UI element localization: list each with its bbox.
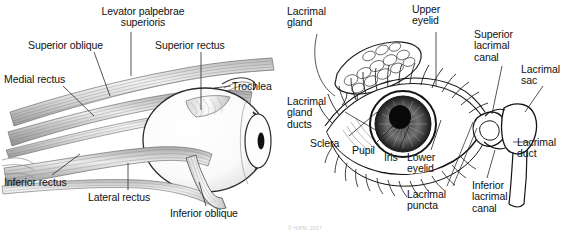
label-inferior_lacrimal: Inferior lacrimal canal (472, 180, 528, 214)
copyright-text: © HIPM, 2017 (288, 225, 322, 231)
label-superior_lacrimal: Superior lacrimal canal (474, 29, 532, 63)
label-sclera: Sclera (310, 138, 354, 149)
label-levator: Levator palpebrae superioris (88, 6, 198, 29)
label-lacrimal_gland_ducts: Lacrimal gland ducts (287, 96, 345, 130)
label-lacrimal_duct: Lacrimal duct (517, 137, 562, 160)
label-lacrimal_gland_top: Lacrimal gland (287, 6, 345, 29)
pupil (389, 105, 411, 129)
label-inferior_oblique: Inferior oblique (170, 208, 260, 219)
label-lateral_rectus: Lateral rectus (88, 192, 174, 203)
label-superior_oblique: Superior oblique (28, 40, 132, 51)
label-trochlea: Trochlea (232, 81, 284, 92)
label-pupil: Pupil (352, 145, 388, 156)
label-upper_eyelid: Upper eyelid (412, 4, 460, 27)
label-lacrimal_sac: Lacrimal sac (521, 64, 562, 87)
label-superior_rectus: Superior rectus (155, 40, 253, 51)
label-lacrimal_puncta: Lacrimal puncta (407, 189, 465, 212)
lacrimal-apparatus-panel: Lacrimal glandUpper eyelidSuperior lacri… (281, 0, 562, 237)
extraocular-muscles-panel: Levator palpebrae superiorisSuperior obl… (0, 0, 281, 237)
label-lower_eyelid: Lower eyelid (407, 152, 455, 175)
anatomy-figure: Levator palpebrae superiorisSuperior obl… (0, 0, 562, 237)
label-medial_rectus: Medial rectus (4, 74, 90, 85)
label-inferior_rectus: Inferior rectus (4, 177, 88, 188)
